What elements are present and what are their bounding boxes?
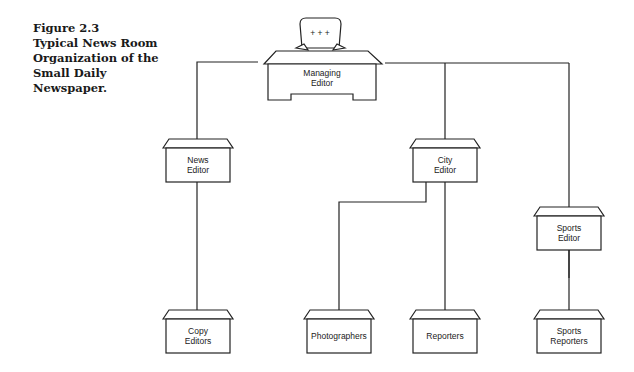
desk-sign: + + +: [310, 28, 330, 38]
desk-top-icon: [304, 310, 374, 319]
node-city-editor: CityEditor: [410, 139, 480, 182]
node-news-editor: NewsEditor: [163, 139, 233, 182]
node-label: Managing: [303, 68, 341, 78]
node-label: Sports: [557, 223, 582, 233]
node-label: Reporters: [426, 331, 463, 341]
node-managing-editor: + + + Managing Editor: [264, 18, 382, 100]
node-label: City: [438, 155, 453, 165]
desk-top-icon: [163, 310, 233, 319]
edge-city-photographers: [339, 182, 426, 310]
desk-top-icon: [163, 139, 233, 148]
node-label: Editor: [558, 233, 580, 243]
desk-top-icon: [410, 310, 480, 319]
node-label: Editor: [187, 165, 209, 175]
node-sports-reporters: SportsReporters: [534, 310, 604, 353]
node-label: Sports: [557, 326, 582, 336]
edge-managing-city: [385, 63, 569, 139]
org-chart: + + + Managing Editor NewsEditorCityEdit…: [0, 0, 634, 372]
node-label: News: [187, 155, 208, 165]
desk-top-icon: [264, 51, 382, 64]
node-label: Editors: [185, 336, 211, 346]
node-label: Copy: [188, 326, 209, 336]
desk-top-icon: [410, 139, 480, 148]
connectors: [197, 62, 569, 310]
node-copy-editors: CopyEditors: [163, 310, 233, 353]
desk-top-icon: [534, 207, 604, 216]
node-label: Editor: [311, 78, 333, 88]
node-label: Photographers: [311, 331, 367, 341]
node-label: Reporters: [550, 336, 587, 346]
desk-top-icon: [534, 310, 604, 319]
node-reporters: Reporters: [410, 310, 480, 353]
node-label: Editor: [434, 165, 456, 175]
node-sports-editor: SportsEditor: [534, 207, 604, 250]
node-photographers: Photographers: [304, 310, 374, 353]
edge-managing-news: [197, 62, 258, 139]
